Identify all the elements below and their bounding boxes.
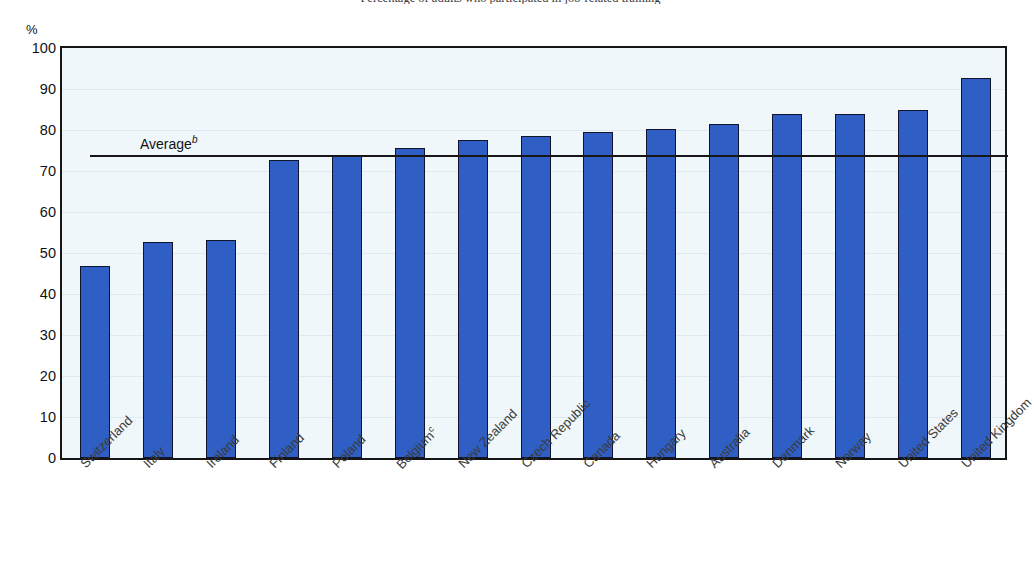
bar-switzerland bbox=[80, 266, 110, 458]
bar-norway bbox=[835, 114, 865, 458]
bar-belgium bbox=[395, 148, 425, 458]
y-tick-label: 70 bbox=[12, 164, 56, 179]
y-tick-label: 20 bbox=[12, 369, 56, 384]
y-tick-label: 40 bbox=[12, 287, 56, 302]
bar-poland bbox=[332, 155, 362, 458]
y-tick-label: 10 bbox=[12, 410, 56, 425]
average-label: Averageb bbox=[140, 135, 197, 151]
bar-hungary bbox=[646, 129, 676, 458]
bar-australia bbox=[709, 124, 739, 458]
y-tick-label: 100 bbox=[12, 41, 56, 56]
bar-czech-republic bbox=[521, 136, 551, 458]
y-axis-unit-label: % bbox=[26, 22, 38, 37]
plot-inner: Averageb bbox=[62, 48, 1005, 458]
bar-ireland bbox=[206, 240, 236, 458]
y-tick-label: 50 bbox=[12, 246, 56, 261]
bar-denmark bbox=[772, 114, 802, 458]
bar-united-states bbox=[898, 110, 928, 458]
average-reference-line bbox=[90, 155, 1008, 157]
y-tick-label: 30 bbox=[12, 328, 56, 343]
bar-new-zealand bbox=[458, 140, 488, 458]
bar-italy bbox=[143, 242, 173, 458]
plot-area: Averageb bbox=[60, 46, 1007, 460]
bar-finland bbox=[269, 160, 299, 458]
gridline bbox=[62, 89, 1005, 90]
average-footnote-marker: b bbox=[192, 134, 198, 145]
x-axis-category-labels: SwitzerlandItalyIrelandFinlandPolandBelg… bbox=[60, 461, 1007, 571]
y-axis-tick-labels: 0102030405060708090100 bbox=[4, 46, 56, 460]
y-tick-label: 80 bbox=[12, 123, 56, 138]
y-tick-label: 90 bbox=[12, 82, 56, 97]
bar-united-kingdom bbox=[961, 78, 991, 458]
y-tick-label: 0 bbox=[12, 451, 56, 466]
chart-title: Percentage of adults who participated in… bbox=[0, 0, 1021, 4]
y-tick-label: 60 bbox=[12, 205, 56, 220]
